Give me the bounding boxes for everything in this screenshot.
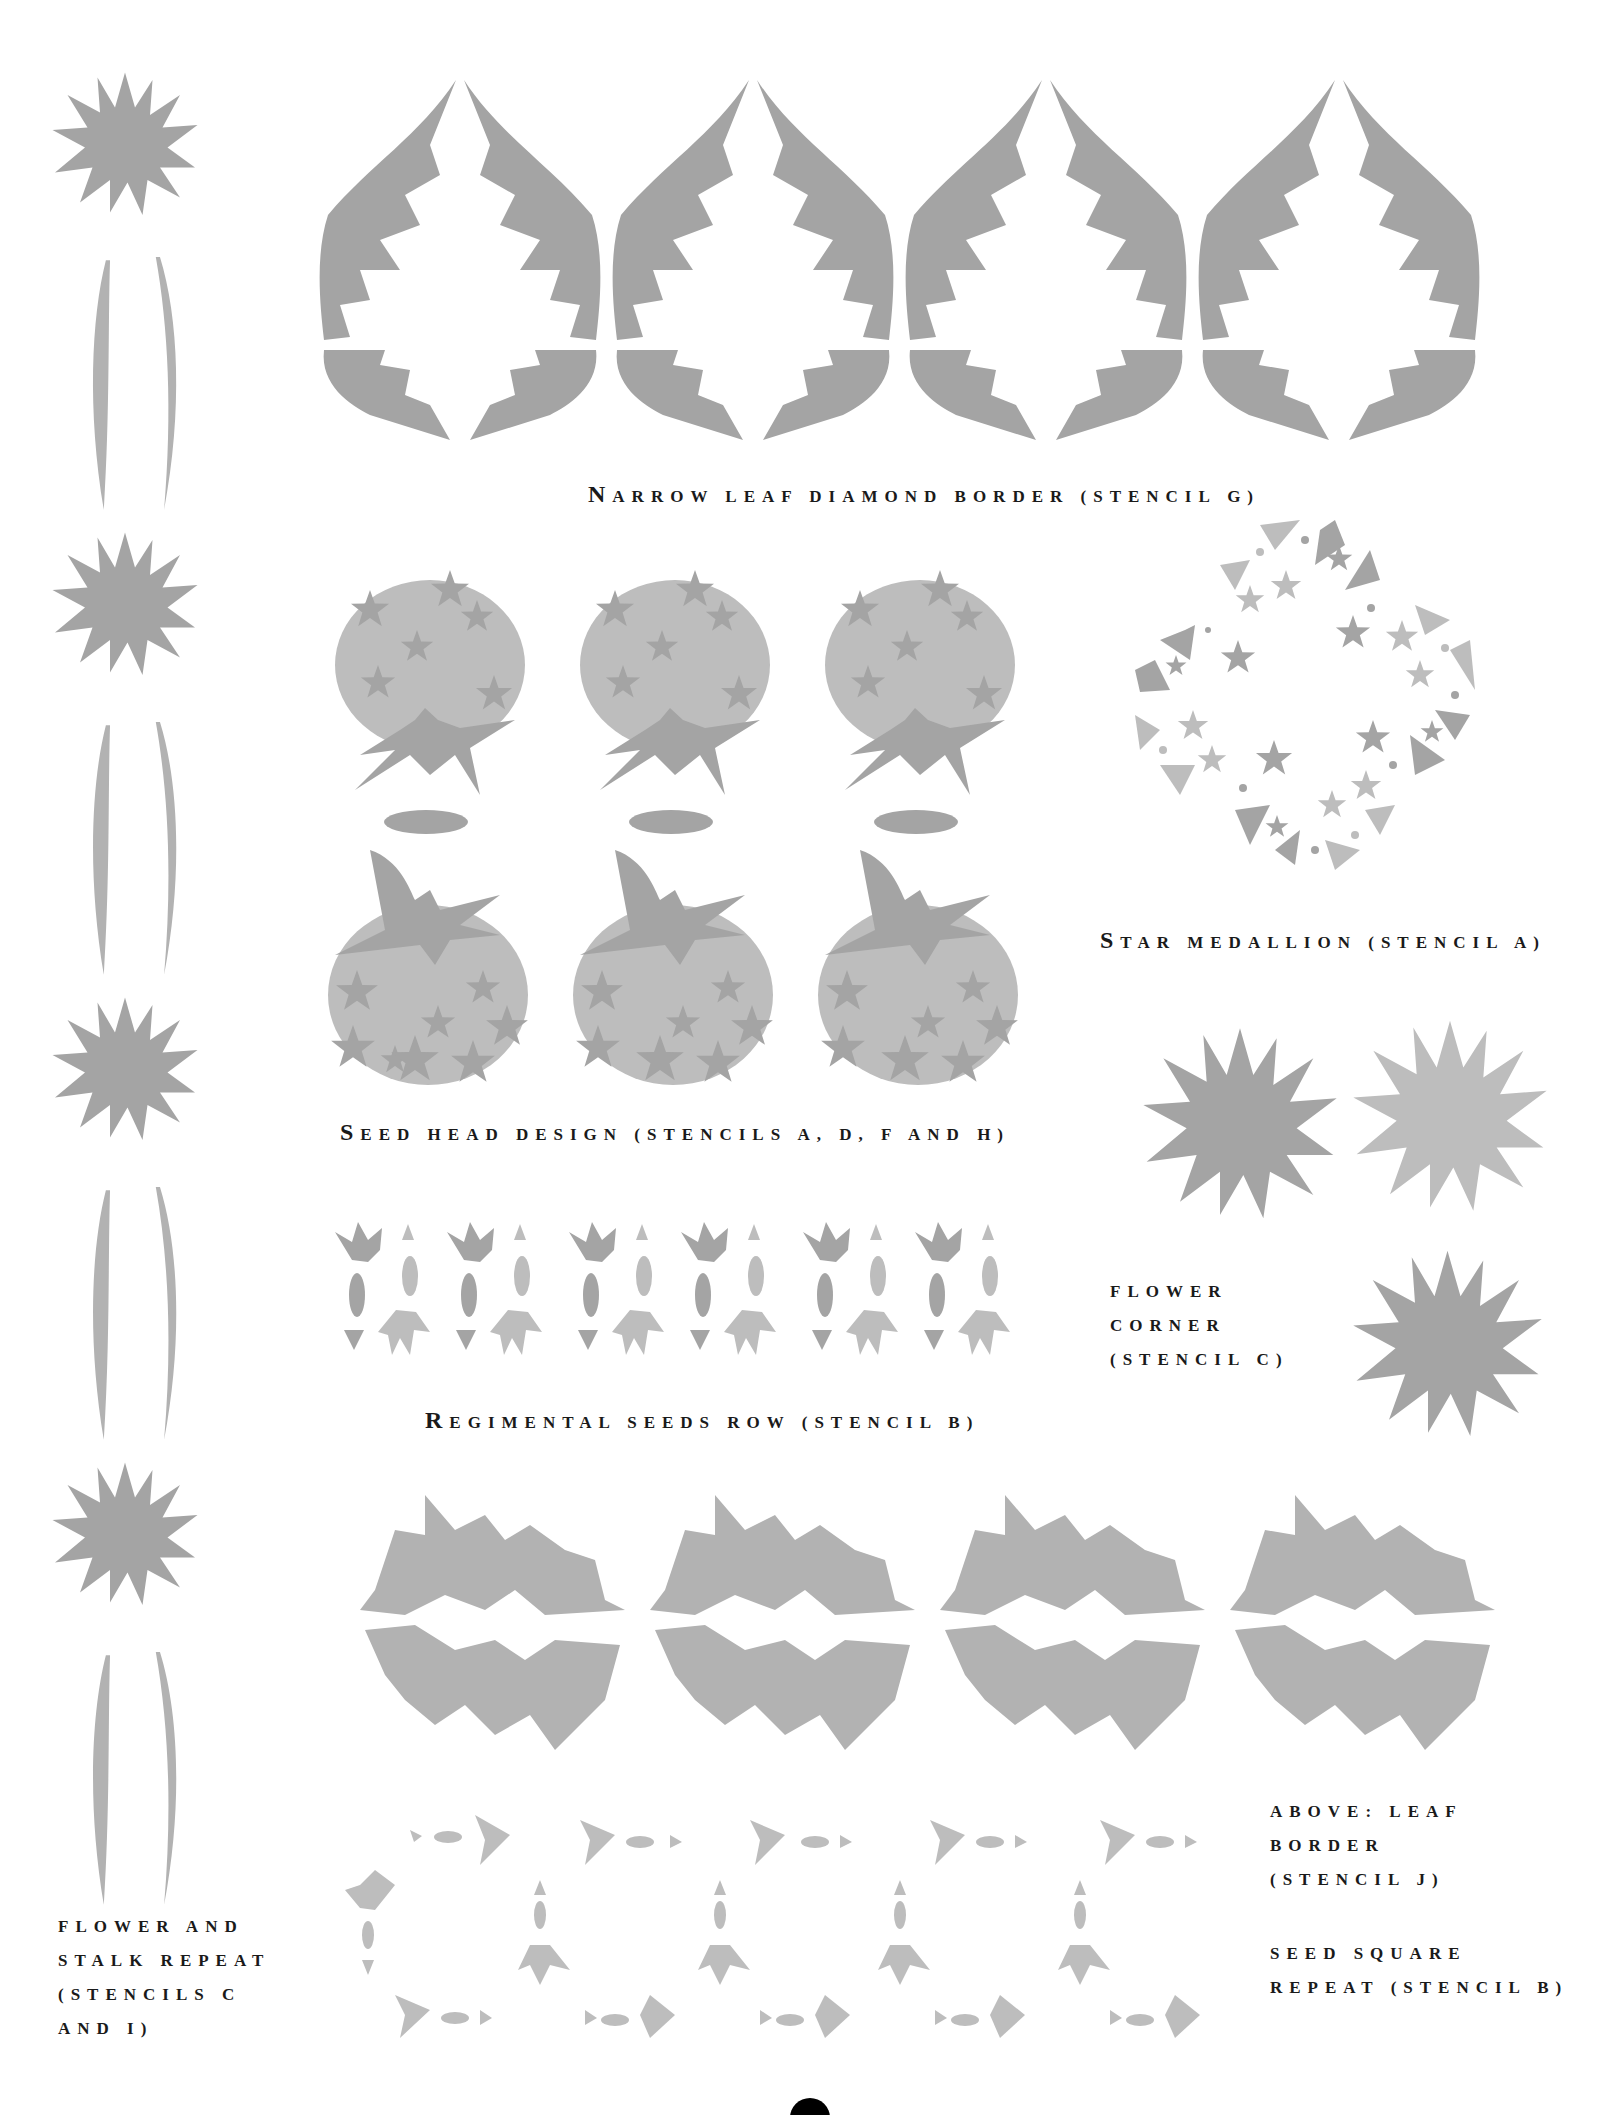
regimental-seeds-row	[330, 1220, 1030, 1365]
seed-icon	[382, 807, 470, 837]
seed-row-icon	[910, 1220, 1020, 1360]
seed-row-icon	[676, 1220, 786, 1360]
star-medallion-icon	[1125, 520, 1505, 890]
narrow-leaf-border	[310, 75, 1490, 455]
seed-icon	[627, 807, 715, 837]
seed-head-icon	[320, 845, 540, 1095]
seed-head-icon	[565, 845, 785, 1095]
seed-square-icon	[340, 1810, 1220, 2040]
seed-row-icon	[798, 1220, 908, 1360]
caption-seed-head: Seed head design (stencils A, D, F and H…	[340, 1120, 1010, 1144]
leaf-diamond-icon	[896, 75, 1196, 445]
caption-flower-corner: Flower corner (stencil C)	[1110, 1275, 1289, 1377]
flower-icon	[1350, 1010, 1550, 1225]
seed-head-icon	[810, 570, 1030, 810]
leaf-diamond-icon	[1189, 75, 1489, 445]
caption-seed-square: Seed square repeat (stencil B)	[1270, 1937, 1568, 2005]
stalk-icon	[80, 1185, 190, 1445]
page-marker	[790, 2098, 830, 2115]
stalk-icon	[80, 720, 190, 980]
leaf-border-icon	[355, 1490, 635, 1760]
leaf-diamond-icon	[603, 75, 903, 445]
caption-star-medallion: Star medallion (stencil A)	[1100, 928, 1546, 952]
flower-stalk-column	[40, 60, 250, 1930]
seed-head-icon	[320, 570, 540, 810]
flower-icon	[50, 530, 200, 680]
leaf-border-icon	[645, 1490, 925, 1760]
seed-head-design	[320, 570, 1060, 1090]
leaf-border-icon	[1225, 1490, 1505, 1760]
flower-icon	[1140, 1015, 1340, 1235]
seed-row-icon	[564, 1220, 674, 1360]
stalk-icon	[80, 255, 190, 515]
caption-narrow-leaf: Narrow leaf diamond border (stencil G)	[588, 482, 1260, 506]
seed-head-icon	[565, 570, 785, 810]
flower-icon	[50, 70, 200, 220]
stalk-icon	[80, 1650, 190, 1910]
caption-leaf-border: Above: Leaf border (stencil J)	[1270, 1795, 1463, 1897]
flower-icon	[1350, 1240, 1545, 1450]
seed-row-icon	[330, 1220, 440, 1360]
seed-icon	[872, 807, 960, 837]
seed-head-icon	[810, 845, 1030, 1095]
seed-row-icon	[442, 1220, 552, 1360]
leaf-border-icon	[935, 1490, 1215, 1760]
leaf-diamond-icon	[310, 75, 610, 445]
caption-flower-stalk: Flower and stalk repeat (stencils C and …	[58, 1910, 270, 2046]
flower-icon	[50, 1460, 200, 1610]
flower-icon	[50, 995, 200, 1145]
caption-regimental: Regimental seeds row (stencil B)	[425, 1408, 979, 1432]
leaf-border	[355, 1490, 1565, 1760]
